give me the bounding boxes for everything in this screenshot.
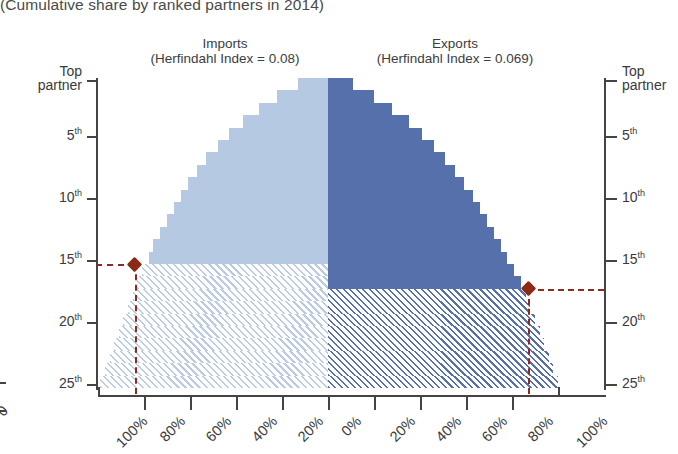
- area-step-row: [114, 338, 328, 350]
- y-axis-right: Toppartner5th10th15th20th25th: [604, 78, 606, 390]
- area-step-row: [328, 152, 445, 164]
- y-axis-tick: [87, 384, 98, 386]
- chart-subtitle: (Cumulative share by ranked partners in …: [0, 0, 430, 14]
- area-step-row: [328, 78, 353, 90]
- area-step-row: [142, 264, 328, 276]
- area-step-row: [328, 289, 526, 301]
- exports-marker-guide-horizontal: [528, 289, 604, 291]
- x-axis-tick: [236, 397, 238, 410]
- y-axis-tick-label: Toppartner: [38, 64, 82, 92]
- y-axis-tick-label: 20th: [622, 312, 645, 329]
- x-axis-tick-label: 60%: [479, 413, 511, 445]
- x-axis-tick-label: 40%: [433, 413, 465, 445]
- area-step-row: [328, 214, 487, 226]
- area-step-row: [153, 239, 328, 251]
- area-step-row: [328, 376, 558, 388]
- area-step-row: [174, 202, 328, 214]
- x-axis-tick: [466, 397, 468, 410]
- area-step-row: [328, 177, 464, 189]
- y-axis-tick: [606, 260, 617, 262]
- area-step-row: [328, 276, 521, 288]
- exports-marker-guide-vertical: [528, 289, 530, 394]
- x-axis-tick: [282, 397, 284, 410]
- imports-marker-guide-vertical: [135, 264, 137, 394]
- area-step-row: [181, 190, 328, 202]
- area-step-row: [149, 252, 328, 264]
- area-step-row: [328, 140, 434, 152]
- x-axis-tick: [190, 397, 192, 410]
- x-axis-tick-label: 20%: [387, 413, 419, 445]
- y-axis-tick: [606, 384, 617, 386]
- x-axis-tick: [512, 397, 514, 410]
- area-step-row: [328, 115, 409, 127]
- y-axis-tick: [87, 136, 98, 138]
- y-axis-tick-label: 25th: [622, 374, 645, 391]
- x-axis-tick-label: 100%: [113, 413, 151, 451]
- y-axis-tick-label: Toppartner: [622, 64, 666, 92]
- area-step-row: [328, 165, 455, 177]
- x-axis-tick: [374, 397, 376, 410]
- y-axis-tick: [606, 198, 617, 200]
- x-axis-tick-label: 100%: [573, 413, 611, 451]
- y-axis-tick: [606, 136, 617, 138]
- area-step-row: [328, 227, 494, 239]
- imports-area-series: [98, 78, 328, 388]
- exports-herfindahl: (Herfindahl Index = 0.069): [340, 51, 570, 66]
- area-step-row: [137, 276, 328, 288]
- y-axis-tick-label: 10th: [59, 188, 82, 205]
- area-step-row: [328, 301, 530, 313]
- x-axis-tick-label: 0%: [338, 413, 364, 439]
- area-step-row: [128, 301, 328, 313]
- area-step-row: [298, 78, 328, 90]
- area-step-row: [328, 363, 553, 375]
- y-axis-tick: [87, 80, 98, 82]
- y-axis-tick: [87, 198, 98, 200]
- x-axis-tick-label: 60%: [203, 413, 235, 445]
- area-step-row: [328, 264, 514, 276]
- y-axis-tick-label: 25th: [59, 374, 82, 391]
- area-step-row: [110, 351, 329, 363]
- area-step-row: [197, 165, 328, 177]
- x-axis-tick-label: 20%: [295, 413, 327, 445]
- area-step-row: [119, 326, 328, 338]
- x-axis-tick: [420, 397, 422, 410]
- area-step-row: [105, 363, 328, 375]
- area-step-row: [328, 314, 535, 326]
- x-axis-end-cap: [558, 387, 560, 397]
- area-step-row: [206, 152, 328, 164]
- area-step-row: [229, 128, 328, 140]
- y-axis-tick-label: 5th: [622, 126, 637, 143]
- area-step-row: [133, 289, 329, 301]
- area-step-row: [328, 351, 549, 363]
- y-axis-tick: [87, 322, 98, 324]
- area-step-row: [328, 252, 507, 264]
- x-axis-tick-label: 80%: [157, 413, 189, 445]
- area-step-row: [218, 140, 328, 152]
- area-step-row: [160, 227, 328, 239]
- area-step-row: [167, 214, 328, 226]
- x-axis-tick: [144, 397, 146, 410]
- area-step-row: [328, 326, 540, 338]
- area-step-row: [328, 338, 544, 350]
- area-step-row: [188, 177, 328, 189]
- x-axis-tick: [328, 397, 330, 410]
- area-step-row: [243, 115, 328, 127]
- area-step-row: [328, 202, 480, 214]
- area-step-row: [328, 128, 422, 140]
- y-axis-tick-label: 10th: [622, 188, 645, 205]
- x-axis-tick-label: 40%: [249, 413, 281, 445]
- y-axis-tick-label: 15th: [59, 250, 82, 267]
- exports-area-series: [328, 78, 560, 388]
- y-axis-tick: [606, 80, 617, 82]
- y-axis-tick-label: 20th: [59, 312, 82, 329]
- area-step-row: [123, 314, 328, 326]
- y-axis-tick-label: 15th: [622, 250, 645, 267]
- exports-panel-label: Exports (Herfindahl Index = 0.069): [340, 36, 570, 66]
- exports-title: Exports: [340, 36, 570, 51]
- imports-title: Imports: [120, 36, 330, 51]
- area-step-row: [328, 103, 392, 115]
- plot-area: [98, 78, 560, 388]
- y-axis-left: Toppartner5th10th15th20th25th: [96, 78, 98, 390]
- x-axis: 100%80%60%40%20%0%20%40%60%80%100%: [98, 395, 606, 397]
- y-axis-tick-label: 5th: [67, 126, 82, 143]
